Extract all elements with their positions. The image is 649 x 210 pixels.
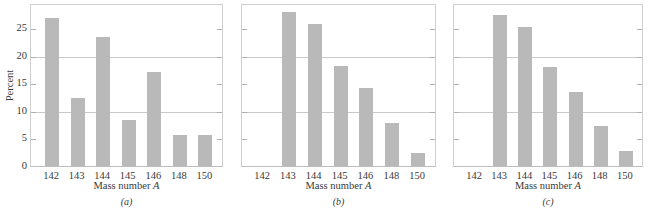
y-tick-mark [454,139,459,140]
panel-caption: (a) [30,196,223,207]
chart-panel-a [30,4,223,167]
bar-146 [147,72,161,166]
bar-150 [411,153,425,166]
y-tick-mark [637,139,642,140]
bar-145 [543,67,557,166]
gridline [31,112,222,113]
bar-150 [619,151,633,166]
y-tick-label: 0 [0,160,27,171]
y-tick-mark [242,139,247,140]
y-axis-label: Percent [4,61,15,111]
y-tick-mark [637,84,642,85]
x-axis-label-variable: A [365,180,371,191]
bar-143 [282,12,296,166]
x-axis-label-variable: A [153,180,159,191]
chart-panel-c [453,4,643,167]
y-tick-mark [637,29,642,30]
y-tick-mark [217,112,222,113]
y-tick-mark [454,57,459,58]
x-axis-label: Mass number A [453,180,643,191]
y-tick-mark [217,139,222,140]
y-tick-label: 5 [0,132,27,143]
y-tick-mark [31,57,36,58]
bar-150 [198,135,212,166]
y-tick-label: 20 [0,50,27,61]
y-tick-mark [242,29,247,30]
y-tick-mark [242,112,247,113]
y-tick-label: 25 [0,22,27,33]
y-tick-mark [31,112,36,113]
y-tick-mark [217,57,222,58]
y-tick-mark [430,139,435,140]
y-tick-mark [454,84,459,85]
y-tick-mark [242,84,247,85]
bar-145 [122,120,136,166]
bar-144 [96,37,110,166]
bar-143 [493,15,507,166]
y-tick-mark [242,57,247,58]
y-tick-mark [31,84,36,85]
bar-148 [385,123,399,166]
y-tick-mark [430,29,435,30]
y-tick-mark [430,112,435,113]
y-tick-mark [637,112,642,113]
bar-146 [359,88,373,166]
y-tick-mark [31,29,36,30]
y-tick-mark [430,84,435,85]
y-tick-mark [217,29,222,30]
chart-panel-b [241,4,436,167]
panel-caption: (b) [241,196,436,207]
y-tick-mark [454,112,459,113]
gridline [242,57,435,58]
y-tick-mark [430,57,435,58]
bar-148 [594,126,608,166]
gridline [31,57,222,58]
y-tick-mark [637,57,642,58]
x-axis-label: Mass number A [30,180,223,191]
y-tick-mark [31,139,36,140]
bar-144 [518,27,532,166]
bar-144 [308,24,322,166]
y-tick-mark [454,29,459,30]
x-axis-label: Mass number A [241,180,436,191]
x-axis-label-text: Mass number [306,180,366,191]
x-axis-label-text: Mass number [515,180,575,191]
gridline [454,57,642,58]
bar-143 [71,98,85,166]
bar-148 [173,135,187,166]
y-tick-mark [217,84,222,85]
bar-145 [334,66,348,166]
bar-142 [45,18,59,166]
x-axis-label-text: Mass number [94,180,154,191]
panel-caption: (c) [453,196,643,207]
bar-146 [569,92,583,166]
x-axis-label-variable: A [575,180,581,191]
